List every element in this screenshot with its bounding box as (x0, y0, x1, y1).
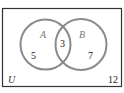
intersection-count: 3 (60, 39, 65, 49)
set-b-label: B (79, 30, 85, 40)
set-a-label: A (40, 30, 46, 40)
outside-count: 12 (108, 75, 118, 85)
a-only-count: 5 (31, 51, 36, 61)
b-only-count: 7 (88, 51, 93, 61)
universe-label: U (8, 75, 15, 85)
